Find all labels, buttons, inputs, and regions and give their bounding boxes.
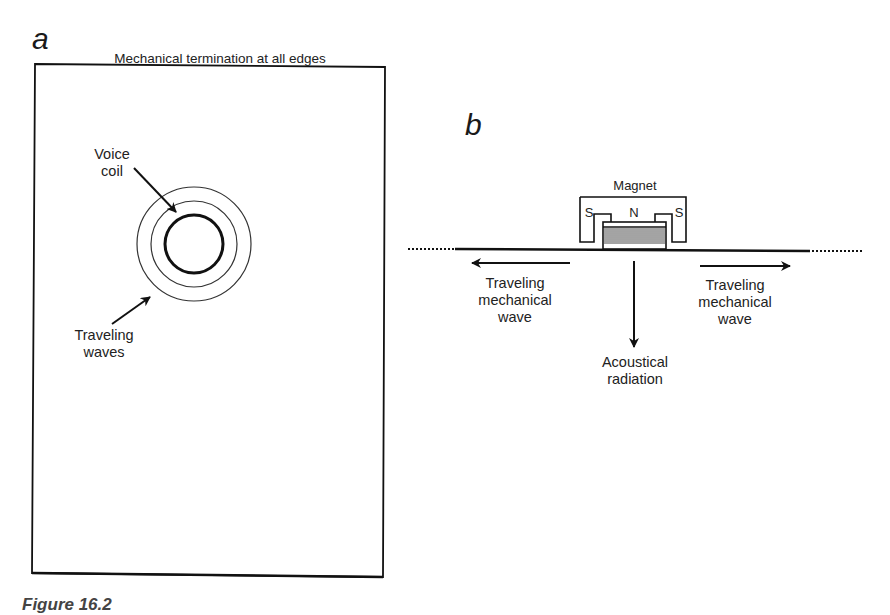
magnet-label: Magnet (603, 177, 667, 194)
panel-a-letter: a (32, 24, 49, 54)
pole-left-s: S (583, 204, 595, 221)
pole-center-n: N (628, 204, 640, 221)
voice-coil-label: Voice coil (82, 146, 142, 180)
waves-arrow-icon (112, 297, 150, 324)
pole-right-s: S (673, 204, 685, 221)
left-wave-label: Traveling mechanical wave (470, 275, 560, 326)
panel-b-letter: b (465, 110, 482, 140)
panel-a-plate (32, 64, 385, 577)
right-wave-label: Traveling mechanical wave (690, 277, 780, 328)
termination-label: Mechanical termination at all edges (90, 50, 350, 67)
voice-coil-and-waves (137, 187, 251, 301)
figure-caption: Figure 16.2 (22, 595, 112, 615)
acoustical-radiation-label: Acoustical radiation (590, 354, 680, 388)
traveling-waves-label: Traveling waves (64, 327, 144, 361)
